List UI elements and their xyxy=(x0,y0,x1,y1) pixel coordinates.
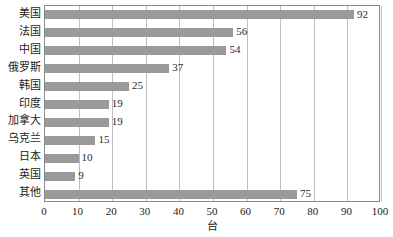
bar-series: 925654372519191510975 xyxy=(45,6,379,201)
bar-row: 56 xyxy=(45,24,379,42)
category-label: 韩国 xyxy=(19,77,41,95)
bar-row: 25 xyxy=(45,78,379,96)
bar-value-label: 92 xyxy=(357,6,368,24)
x-tick-label: 50 xyxy=(207,204,218,219)
bar-row: 54 xyxy=(45,42,379,60)
bar-row: 10 xyxy=(45,149,379,167)
x-tick-label: 70 xyxy=(274,204,285,219)
x-tick-label: 30 xyxy=(139,204,150,219)
x-tick-label: 90 xyxy=(341,204,352,219)
bar-value-label: 10 xyxy=(82,149,93,167)
bar-value-label: 15 xyxy=(98,131,109,149)
bar xyxy=(45,10,354,19)
category-label: 英国 xyxy=(19,166,41,184)
x-tick-label: 60 xyxy=(240,204,251,219)
bar-value-label: 25 xyxy=(132,77,143,95)
horizontal-bar-chart: 美国法国中国俄罗斯韩国印度加拿大乌克兰日本英国其他 92565437251919… xyxy=(0,0,393,237)
category-label: 印度 xyxy=(19,95,41,113)
bar xyxy=(45,82,129,91)
x-tick-label: 10 xyxy=(72,204,83,219)
category-label: 中国 xyxy=(19,41,41,59)
category-label: 俄罗斯 xyxy=(8,59,41,77)
x-tick-label: 100 xyxy=(372,204,389,219)
bar-value-label: 75 xyxy=(300,185,311,203)
category-label: 法国 xyxy=(19,23,41,41)
bar-value-label: 56 xyxy=(236,23,247,41)
bar xyxy=(45,28,233,37)
bar-row: 75 xyxy=(45,185,379,203)
axis-unit-label: 台 xyxy=(207,219,218,234)
bar xyxy=(45,190,297,199)
bar xyxy=(45,172,75,181)
x-tick-label: 80 xyxy=(307,204,318,219)
category-label: 加拿大 xyxy=(8,112,41,130)
category-axis-labels: 美国法国中国俄罗斯韩国印度加拿大乌克兰日本英国其他 xyxy=(0,5,41,202)
bar xyxy=(45,100,109,109)
bar-row: 19 xyxy=(45,113,379,131)
x-tick-label: 0 xyxy=(41,204,47,219)
bar-row: 92 xyxy=(45,6,379,24)
bar-row: 15 xyxy=(45,131,379,149)
x-tick-label: 20 xyxy=(106,204,117,219)
bar xyxy=(45,64,169,73)
bar-value-label: 19 xyxy=(112,113,123,131)
value-axis-tick-labels: 0102030405060708090100 xyxy=(0,204,393,220)
category-label: 日本 xyxy=(19,148,41,166)
bar-value-label: 54 xyxy=(229,41,240,59)
plot-area: 925654372519191510975 xyxy=(44,5,380,202)
category-label: 美国 xyxy=(19,5,41,23)
bar-value-label: 9 xyxy=(78,167,84,185)
bar-value-label: 19 xyxy=(112,95,123,113)
bar-value-label: 37 xyxy=(172,59,183,77)
bar-row: 19 xyxy=(45,96,379,114)
category-label: 其他 xyxy=(19,184,41,202)
x-tick-label: 40 xyxy=(173,204,184,219)
bar-row: 37 xyxy=(45,60,379,78)
bar xyxy=(45,154,79,163)
bar xyxy=(45,136,95,145)
gridline xyxy=(381,6,382,201)
category-label: 乌克兰 xyxy=(8,130,41,148)
bar xyxy=(45,118,109,127)
bar xyxy=(45,46,226,55)
bar-row: 9 xyxy=(45,167,379,185)
